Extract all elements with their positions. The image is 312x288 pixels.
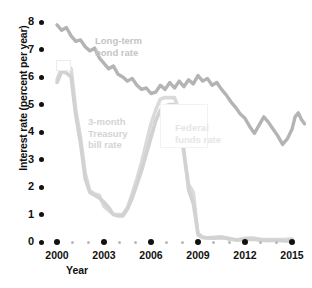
x-tick-label-2006: 2006 [131,249,171,261]
x-tick-minor-2010 [212,241,215,244]
x-axis-title: Year [66,264,88,276]
plot-marker-box-2000 [56,60,71,71]
x-tick-minor-2007 [165,241,168,244]
x-tick-dot-2003 [101,239,107,245]
x-tick-label-2009: 2009 [178,249,218,261]
series-line-federal-funds-rate [57,65,292,240]
x-tick-dot-2015 [289,239,295,245]
x-tick-dot-2000 [54,239,60,245]
x-tick-label-2003: 2003 [84,249,124,261]
plot-area [0,0,312,288]
three-month-treasury-bill-rate-label: 3-month Treasury bill rate [88,116,128,151]
x-tick-label-2000: 2000 [37,249,77,261]
x-tick-minor-2005 [134,241,137,244]
x-tick-label-2015: 2015 [272,249,312,261]
x-tick-dot-2009 [195,239,201,245]
interest-rate-chart: Interest rate (percent per year) 0123456… [0,0,312,288]
x-tick-minor-2013 [259,241,262,244]
x-tick-label-2012: 2012 [225,249,265,261]
x-tick-minor-2008 [181,241,184,244]
x-tick-dot-2012 [242,239,248,245]
x-tick-minor-2011 [228,241,231,244]
x-tick-dot-2006 [148,239,154,245]
x-tick-minor-2014 [275,241,278,244]
federal-funds-rate-label: Federal funds rate [175,122,221,145]
x-tick-minor-2004 [118,241,121,244]
x-tick-minor-2001 [71,241,74,244]
long-term-bond-rate-label: Long-term bond rate [95,35,142,58]
x-tick-minor-2002 [87,241,90,244]
